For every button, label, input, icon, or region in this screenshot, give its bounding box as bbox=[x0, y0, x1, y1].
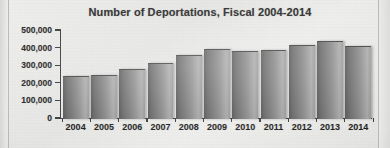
x-axis-tick-label-2008: 2008 bbox=[175, 122, 203, 132]
bar-2013 bbox=[317, 41, 343, 119]
y-axis-tick-label: 300,000 bbox=[21, 60, 52, 70]
y-axis-tick-label: 200,000 bbox=[21, 78, 52, 88]
y-axis-tick bbox=[55, 100, 61, 101]
x-axis-tick-label-2013: 2013 bbox=[316, 122, 344, 132]
x-axis-tick-label-2011: 2011 bbox=[260, 122, 288, 132]
bar-2005 bbox=[91, 75, 117, 119]
x-axis-tick-label-2006: 2006 bbox=[118, 122, 146, 132]
y-axis-tick-label: 400,000 bbox=[21, 43, 52, 53]
x-axis-tick-label-2005: 2005 bbox=[90, 122, 118, 132]
chart-screenshot: Number of Deportations, Fiscal 2004-2014… bbox=[0, 0, 390, 148]
bar-2006 bbox=[119, 69, 145, 119]
bar-2011 bbox=[261, 50, 287, 119]
bar-2007 bbox=[148, 63, 174, 119]
y-axis-tick bbox=[55, 29, 61, 30]
bar-2008 bbox=[176, 55, 202, 119]
bar-2009 bbox=[204, 49, 230, 119]
y-axis-tick bbox=[55, 47, 61, 48]
x-axis-tick bbox=[373, 118, 374, 122]
x-axis-tick-label-2012: 2012 bbox=[288, 122, 316, 132]
plot-area: 0100,000200,000300,000400,000500,000 200… bbox=[0, 0, 390, 148]
bar-2014 bbox=[345, 46, 371, 119]
y-axis-tick bbox=[55, 82, 61, 83]
x-axis-tick-label-2007: 2007 bbox=[146, 122, 174, 132]
x-axis-tick-label-2014: 2014 bbox=[344, 122, 372, 132]
bar-2010 bbox=[232, 51, 258, 119]
y-axis-tick-label: 500,000 bbox=[21, 25, 52, 35]
x-axis-tick-label-2004: 2004 bbox=[62, 122, 90, 132]
bar-2012 bbox=[289, 45, 315, 119]
y-axis-line bbox=[60, 29, 61, 119]
y-axis-tick-label: 100,000 bbox=[21, 95, 52, 105]
y-axis-tick bbox=[55, 117, 61, 118]
x-axis-tick-label-2009: 2009 bbox=[203, 122, 231, 132]
y-axis-tick-label: 0 bbox=[47, 113, 52, 123]
x-axis-tick-label-2010: 2010 bbox=[231, 122, 259, 132]
y-axis-tick bbox=[55, 65, 61, 66]
bar-2004 bbox=[63, 76, 89, 119]
